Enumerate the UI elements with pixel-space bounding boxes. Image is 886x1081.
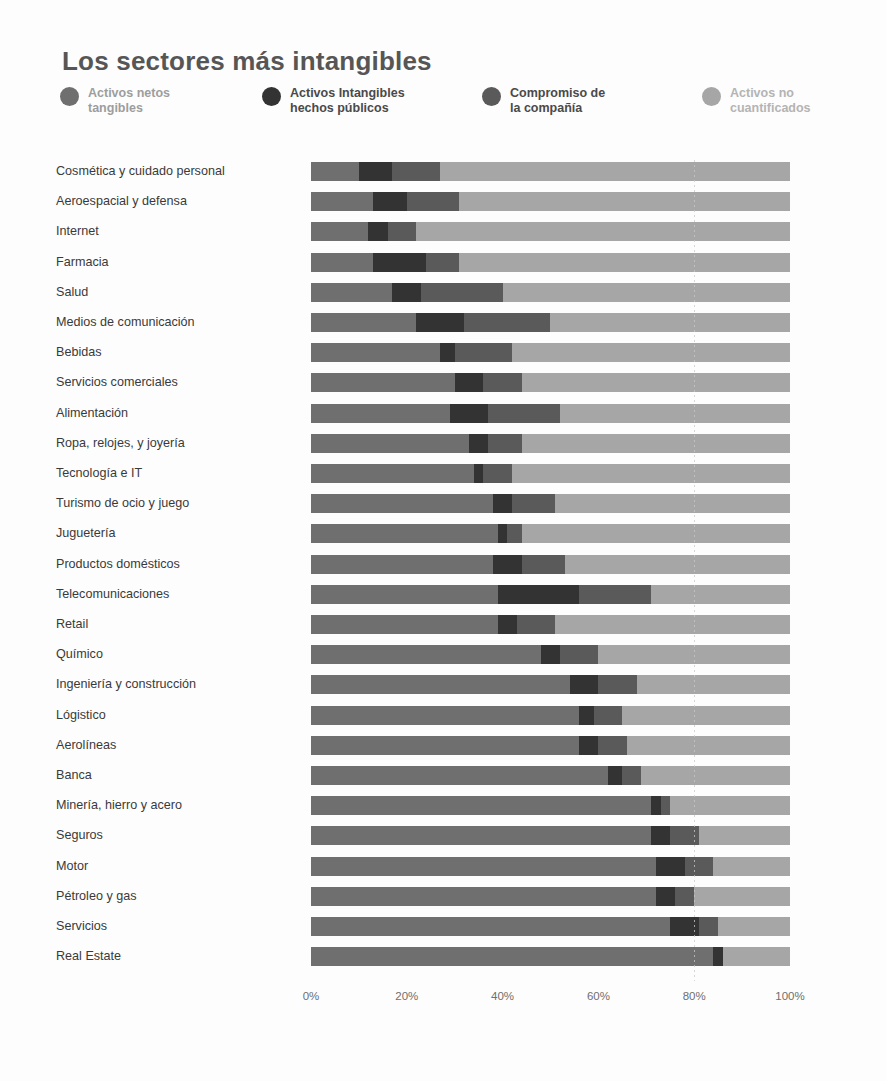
bar-segment <box>541 645 560 664</box>
stacked-bar[interactable] <box>311 434 790 453</box>
bar-segment <box>598 736 627 755</box>
bar-segment <box>498 524 508 543</box>
category-label: Ropa, relojes, y joyería <box>56 432 296 454</box>
bar-segment <box>440 343 454 362</box>
legend-item-intangibles_publicos[interactable]: Activos Intangibles hechos públicos <box>262 86 405 116</box>
stacked-bar[interactable] <box>311 675 790 694</box>
bar-segment <box>651 826 670 845</box>
bar-segment <box>311 162 359 181</box>
bar-segment <box>311 857 656 876</box>
bar-segment <box>311 645 541 664</box>
category-label: Químico <box>56 643 296 665</box>
category-label: Real Estate <box>56 945 296 967</box>
chart-plot-area: Cosmética y cuidado personalAeroespacial… <box>0 160 886 1060</box>
category-label: Retail <box>56 613 296 635</box>
bar-segment <box>555 494 790 513</box>
stacked-bar[interactable] <box>311 222 790 241</box>
stacked-bar[interactable] <box>311 706 790 725</box>
bar-segment <box>713 947 723 966</box>
stacked-bar[interactable] <box>311 615 790 634</box>
chart-row: Juguetería <box>0 522 886 552</box>
legend-swatch-icon <box>60 87 79 106</box>
bar-segment <box>373 192 407 211</box>
stacked-bar[interactable] <box>311 494 790 513</box>
bar-segment <box>311 434 469 453</box>
category-label: Seguros <box>56 824 296 846</box>
stacked-bar[interactable] <box>311 555 790 574</box>
bar-segment <box>627 736 790 755</box>
stacked-bar[interactable] <box>311 283 790 302</box>
stacked-bar[interactable] <box>311 343 790 362</box>
chart-row: Pétroleo y gas <box>0 885 886 915</box>
stacked-bar[interactable] <box>311 585 790 604</box>
legend-item-tangibles[interactable]: Activos netos tangibles <box>60 86 170 116</box>
bar-segment <box>608 766 622 785</box>
stacked-bar[interactable] <box>311 857 790 876</box>
stacked-bar[interactable] <box>311 826 790 845</box>
chart-row: Seguros <box>0 824 886 854</box>
chart-row: Tecnología e IT <box>0 462 886 492</box>
chart-row: Cosmética y cuidado personal <box>0 160 886 190</box>
chart-row: Servicios comerciales <box>0 371 886 401</box>
stacked-bar[interactable] <box>311 313 790 332</box>
chart-row: Farmacia <box>0 251 886 281</box>
bar-segment <box>368 222 387 241</box>
bar-segment <box>713 857 790 876</box>
legend-item-compromiso[interactable]: Compromiso de la compañía <box>482 86 605 116</box>
bar-segment <box>661 796 671 815</box>
stacked-bar[interactable] <box>311 947 790 966</box>
bar-segment <box>641 766 789 785</box>
chart-row: Bebidas <box>0 341 886 371</box>
bar-segment <box>488 434 522 453</box>
bar-segment <box>512 494 555 513</box>
stacked-bar[interactable] <box>311 917 790 936</box>
bar-segment <box>311 766 608 785</box>
stacked-bar[interactable] <box>311 162 790 181</box>
chart-row: Turismo de ocio y juego <box>0 492 886 522</box>
bar-segment <box>440 162 790 181</box>
category-label: Turismo de ocio y juego <box>56 492 296 514</box>
chart-row: Salud <box>0 281 886 311</box>
category-label: Bebidas <box>56 341 296 363</box>
x-axis-tick: 0% <box>303 990 320 1002</box>
bar-segment <box>392 283 421 302</box>
stacked-bar[interactable] <box>311 645 790 664</box>
bar-segment <box>656 857 685 876</box>
x-axis-tick: 40% <box>491 990 514 1002</box>
category-label: Ingeniería y construcción <box>56 673 296 695</box>
stacked-bar[interactable] <box>311 404 790 423</box>
legend-swatch-icon <box>262 87 281 106</box>
stacked-bar[interactable] <box>311 524 790 543</box>
bar-segment <box>598 675 636 694</box>
chart-row: Ingeniería y construcción <box>0 673 886 703</box>
chart-row: Servicios <box>0 915 886 945</box>
stacked-bar[interactable] <box>311 373 790 392</box>
bar-segment <box>560 404 790 423</box>
stacked-bar[interactable] <box>311 464 790 483</box>
bar-segment <box>311 675 570 694</box>
bar-segment <box>493 494 512 513</box>
bar-segment <box>455 373 484 392</box>
stacked-bar[interactable] <box>311 736 790 755</box>
category-label: Telecomunicaciones <box>56 583 296 605</box>
x-axis-tick: 20% <box>395 990 418 1002</box>
category-label: Aeroespacial y defensa <box>56 190 296 212</box>
stacked-bar[interactable] <box>311 796 790 815</box>
bar-segment <box>565 555 790 574</box>
stacked-bar[interactable] <box>311 887 790 906</box>
bar-segment <box>555 615 790 634</box>
chart-row: Aeroespacial y defensa <box>0 190 886 220</box>
stacked-bar[interactable] <box>311 766 790 785</box>
category-label: Salud <box>56 281 296 303</box>
stacked-bar[interactable] <box>311 192 790 211</box>
stacked-bar[interactable] <box>311 253 790 272</box>
category-label: Farmacia <box>56 251 296 273</box>
bar-segment <box>685 857 714 876</box>
legend-item-no_cuantificados[interactable]: Activos no cuantificados <box>702 86 811 116</box>
bar-segment <box>579 706 593 725</box>
chart-legend: Activos netos tangiblesActivos Intangibl… <box>60 86 860 136</box>
chart-row: Ropa, relojes, y joyería <box>0 432 886 462</box>
bar-segment <box>723 947 790 966</box>
bar-segment <box>450 404 488 423</box>
bar-segment <box>594 706 623 725</box>
